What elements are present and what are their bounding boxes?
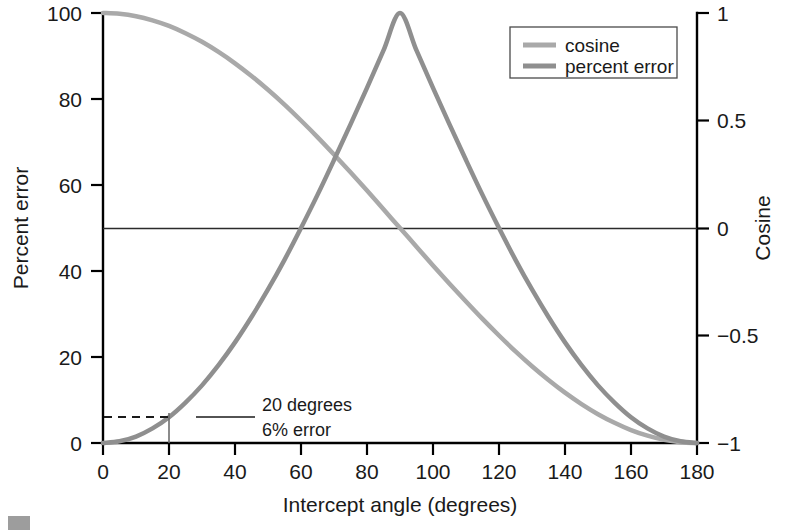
right-tick-label-1: 1	[717, 2, 729, 25]
left-axis-ticks	[91, 13, 103, 443]
left-tick-label-80: 80	[59, 88, 82, 111]
bottom-tick-label-180: 180	[679, 460, 714, 483]
left-tick-label-100: 100	[47, 2, 82, 25]
right-tick-label-neg05: −0.5	[717, 324, 758, 347]
bottom-tick-label-120: 120	[481, 460, 516, 483]
bottom-axis-title: Intercept angle (degrees)	[283, 493, 518, 516]
left-tick-label-40: 40	[59, 260, 82, 283]
right-axis-ticks	[697, 13, 709, 443]
bottom-tick-label-0: 0	[97, 460, 109, 483]
left-tick-label-60: 60	[59, 174, 82, 197]
bottom-tick-label-80: 80	[355, 460, 378, 483]
legend-label-percent-error: percent error	[565, 56, 674, 77]
left-tick-label-20: 20	[59, 346, 82, 369]
left-axis-title: Percent error	[9, 167, 32, 290]
legend-label-cosine: cosine	[565, 35, 620, 56]
page-corner-artifact	[8, 516, 30, 530]
annotation-line-1: 20 degrees	[262, 395, 352, 415]
chart-figure: 0 20 40 60 80 100 Percent error −1 −0.5 …	[0, 0, 786, 531]
bottom-tick-label-20: 20	[157, 460, 180, 483]
bottom-tick-label-100: 100	[415, 460, 450, 483]
bottom-tick-label-60: 60	[289, 460, 312, 483]
bottom-axis-tick-labels: 0 20 40 60 80 100 120 140 160 180	[97, 460, 714, 483]
bottom-axis-ticks	[103, 443, 697, 455]
bottom-tick-label-140: 140	[547, 460, 582, 483]
right-tick-label-05: 0.5	[717, 109, 746, 132]
left-axis-tick-labels: 0 20 40 60 80 100	[47, 2, 82, 455]
chart-svg: 0 20 40 60 80 100 Percent error −1 −0.5 …	[0, 0, 786, 531]
right-axis-title: Cosine	[751, 195, 774, 260]
right-tick-label-neg1: −1	[717, 432, 741, 455]
right-tick-label-0: 0	[717, 217, 729, 240]
bottom-tick-label-160: 160	[613, 460, 648, 483]
bottom-tick-label-40: 40	[223, 460, 246, 483]
annotation-line-2: 6% error	[262, 420, 331, 440]
left-tick-label-0: 0	[70, 432, 82, 455]
legend: cosine percent error	[510, 27, 677, 78]
